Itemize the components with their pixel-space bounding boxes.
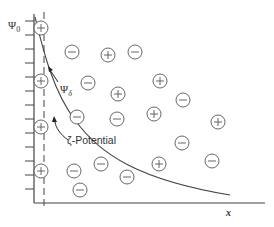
cation-icon (34, 120, 48, 134)
psi0-label: Ψ0 (8, 19, 20, 34)
cation-icon (153, 74, 167, 88)
anion-icon (67, 164, 81, 178)
cation-icon (152, 157, 166, 171)
arrowhead-icon (52, 116, 57, 122)
cation-icon (34, 74, 48, 88)
double-layer-diagram: Ψ0 Ψδ ζ-Potential x (0, 0, 274, 227)
cation-icon (211, 115, 225, 129)
x-axis-label: x (225, 207, 231, 218)
potential-decay-curve (35, 17, 230, 195)
axes (25, 14, 265, 203)
psi-delta-label: Ψδ (60, 83, 72, 98)
cation-icon (34, 21, 48, 35)
cation-icon (101, 48, 115, 62)
anion-icon (70, 110, 84, 124)
cation-icon (111, 87, 125, 101)
cation-icon (34, 164, 48, 178)
anion-icon (65, 45, 79, 59)
anion-icon (205, 154, 219, 168)
arrowhead-icon (48, 66, 53, 72)
anion-icon (128, 45, 142, 59)
anion-icon (176, 93, 190, 107)
zeta-potential-label: ζ-Potential (67, 134, 116, 146)
anion-icon (73, 183, 87, 197)
ions-layer (34, 21, 225, 197)
diagram-canvas: Ψ0 Ψδ ζ-Potential x (0, 0, 274, 227)
anion-icon (175, 136, 189, 150)
anion-icon (94, 157, 108, 171)
cation-icon (147, 107, 161, 121)
anion-icon (81, 76, 95, 90)
zeta-arrow (52, 116, 68, 140)
wall-tick-marks (25, 21, 34, 189)
anion-icon (110, 112, 124, 126)
anion-icon (120, 170, 134, 184)
